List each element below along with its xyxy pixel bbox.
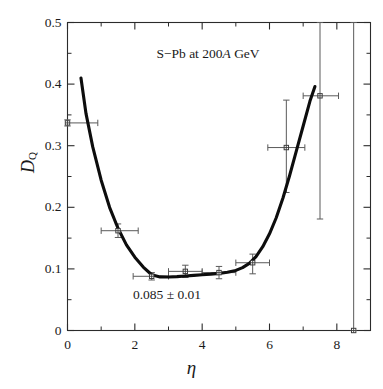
data-point-marker [116, 229, 120, 233]
y-tick-label: 0.2 [16, 200, 62, 214]
x-tick-label: 2 [120, 338, 150, 352]
title-italic-segment: A [223, 46, 231, 61]
axis-ticks [68, 23, 371, 331]
chart-title: S−Pb at 200A GeV [78, 46, 338, 62]
data-point-marker [65, 121, 69, 125]
y-axis-label: DQ [18, 143, 39, 183]
data-point-marker [183, 269, 187, 273]
data-point-marker [351, 328, 355, 332]
fit-curve [81, 78, 315, 277]
data-point-marker [250, 261, 254, 265]
data-point-marker [149, 274, 153, 278]
x-axis-label: η [0, 357, 383, 379]
data-point-marker [217, 270, 221, 274]
y-tick-label: 0 [16, 324, 62, 338]
chart-figure: 00.10.20.30.40.502468 S−Pb at 200A GeV 0… [0, 0, 383, 389]
data-point-marker [318, 94, 322, 98]
y-tick-label: 0.1 [16, 262, 62, 276]
axes-frame [68, 23, 371, 331]
x-tick-label: 4 [187, 338, 217, 352]
x-tick-label: 0 [53, 338, 83, 352]
x-tick-label: 8 [322, 338, 352, 352]
y-axis-label-symbol: D [18, 160, 38, 173]
y-axis-label-subscript: Q [26, 152, 38, 160]
error-bars [64, 23, 357, 331]
y-tick-label: 0.5 [16, 16, 62, 30]
y-tick-label: 0.4 [16, 77, 62, 91]
data-point-marker [284, 145, 288, 149]
x-tick-label: 6 [255, 338, 285, 352]
plateau-value-annotation: 0.085 ± 0.01 [72, 287, 262, 303]
